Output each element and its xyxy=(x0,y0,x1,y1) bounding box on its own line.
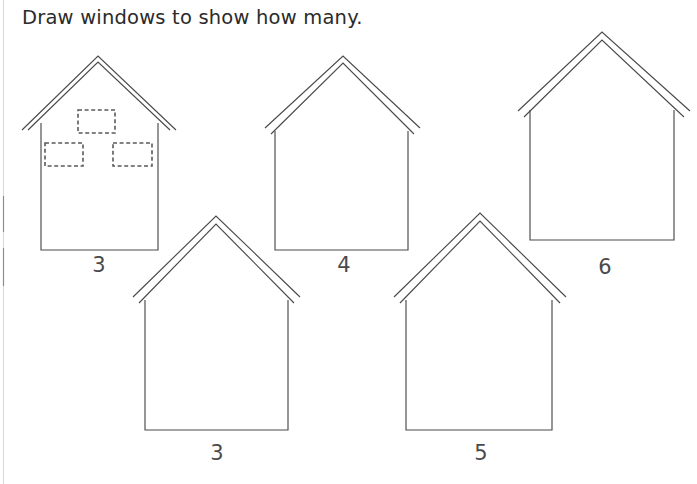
house-1-count-label: 3 xyxy=(92,253,105,277)
house-3-count-label: 6 xyxy=(598,255,611,279)
house-2-body xyxy=(275,131,408,250)
house-4-body xyxy=(145,300,288,430)
house-1-roof-outer xyxy=(22,56,176,130)
house-5-roof-outer xyxy=(394,213,566,297)
house-1-window-top-center[interactable] xyxy=(78,110,115,133)
house-1-body xyxy=(41,123,158,250)
house-1[interactable]: 3 xyxy=(22,56,176,277)
house-3-body xyxy=(530,110,674,240)
page-title: Draw windows to show how many. xyxy=(22,6,363,29)
house-1-window-lower-right[interactable] xyxy=(113,143,152,166)
house-1-roof-inner xyxy=(28,62,170,130)
house-4-count-label: 3 xyxy=(210,441,223,465)
house-2-roof-inner xyxy=(271,63,414,134)
house-4-roof-inner xyxy=(139,224,294,303)
house-2-count-label: 4 xyxy=(337,253,350,277)
house-3[interactable]: 6 xyxy=(518,32,690,279)
house-5-body xyxy=(406,300,552,430)
house-5[interactable]: 5 xyxy=(394,213,566,465)
worksheet-canvas: Draw windows to show how many. 3 4 xyxy=(0,0,697,484)
worksheet-page: Draw windows to show how many. 3 4 xyxy=(0,0,697,484)
house-2[interactable]: 4 xyxy=(265,56,420,277)
house-5-count-label: 5 xyxy=(474,441,487,465)
house-1-window-lower-left[interactable] xyxy=(45,143,83,166)
house-5-roof-inner xyxy=(400,221,560,303)
house-3-roof-inner xyxy=(524,40,684,117)
house-4[interactable]: 3 xyxy=(133,216,300,465)
